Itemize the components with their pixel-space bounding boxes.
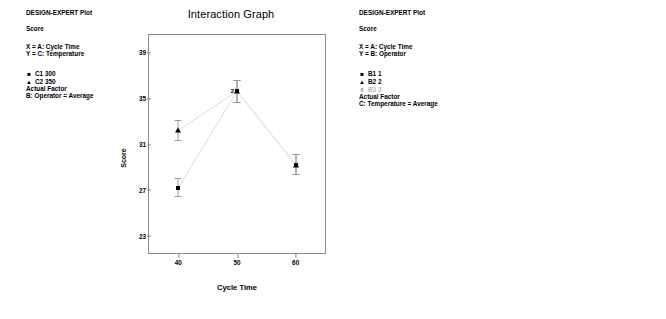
y-axis-label: Score xyxy=(120,148,127,167)
response-label: Score xyxy=(359,26,479,33)
y-axis-tick: 31 xyxy=(139,141,146,148)
interaction-graph-sheet: DESIGN-EXPERT Plot Score X = A: Cycle Ti… xyxy=(0,0,666,319)
error-bar-cap-bottom xyxy=(175,140,182,141)
series-lines xyxy=(149,35,325,253)
plot-area: 23273135394050602 xyxy=(149,35,325,253)
actual-factor-value: B: Operator = Average xyxy=(26,93,146,100)
error-bar-cap-top xyxy=(292,154,299,155)
error-bar-cap-bottom xyxy=(234,102,241,103)
legend-block-temperature: DESIGN-EXPERT Plot Score X = A: Cycle Ti… xyxy=(26,10,146,99)
error-bar-cap-bottom xyxy=(292,174,299,175)
x-tick-mark xyxy=(296,254,297,258)
x-axis-tick: 40 xyxy=(175,259,182,266)
error-bar-cap-bottom xyxy=(175,196,182,197)
plot-frame: 23273135394050602 xyxy=(148,34,326,254)
y-factor-label: Y = B: Operator xyxy=(359,51,479,58)
diamond-marker-icon: ◊ xyxy=(359,87,365,93)
x-tick-mark xyxy=(178,254,179,258)
triangle-marker-icon: ▲ xyxy=(26,79,32,85)
data-point-triangle xyxy=(293,162,299,167)
operator-panel: DESIGN-EXPERT Plot Score X = A: Cycle Ti… xyxy=(333,0,666,319)
triangle-marker-icon: ▲ xyxy=(359,79,365,85)
data-point-square xyxy=(176,186,180,190)
actual-factor-value: C: Temperature = Average xyxy=(359,101,479,108)
x-axis-tick: 50 xyxy=(233,259,240,266)
y-axis-tick: 35 xyxy=(139,95,146,102)
y-axis-tick: 23 xyxy=(139,232,146,239)
x-axis-tick: 60 xyxy=(292,259,299,266)
x-tick-mark xyxy=(237,254,238,258)
brand-label: DESIGN-EXPERT Plot xyxy=(26,10,146,17)
chart-title: Interaction Graph xyxy=(136,8,326,20)
legend-item-b2: ▲ B2 2 xyxy=(359,78,479,86)
chart-temperature: Interaction Graph Score Cycle Time Tempe… xyxy=(136,26,326,290)
data-point-triangle xyxy=(234,89,240,94)
legend-label: C1 300 xyxy=(35,71,56,78)
x-axis-label: Cycle Time xyxy=(148,283,326,292)
data-point-triangle xyxy=(175,128,181,133)
square-marker-icon: ■ xyxy=(26,71,32,77)
legend-label: B2 2 xyxy=(368,79,382,86)
error-bar-cap-top xyxy=(234,80,241,81)
legend-block-operator: DESIGN-EXPERT Plot Score X = A: Cycle Ti… xyxy=(359,10,479,107)
y-axis-tick: 27 xyxy=(139,186,146,193)
brand-label: DESIGN-EXPERT Plot xyxy=(359,10,479,17)
point-count-annotation: 2 xyxy=(231,88,234,94)
square-marker-icon: ■ xyxy=(359,71,365,77)
error-bar-cap-top xyxy=(175,178,182,179)
error-bar-cap-top xyxy=(175,120,182,121)
legend-item-c1: ■ C1 300 xyxy=(26,70,146,78)
series-line xyxy=(178,91,295,187)
response-label: Score xyxy=(26,26,146,33)
y-axis-tick: 39 xyxy=(139,49,146,56)
temperature-panel: DESIGN-EXPERT Plot Score X = A: Cycle Ti… xyxy=(0,0,333,319)
legend-label: B1 1 xyxy=(368,71,382,78)
legend-item-b1: ■ B1 1 xyxy=(359,70,479,78)
y-factor-label: Y = C: Temperature xyxy=(26,51,146,58)
